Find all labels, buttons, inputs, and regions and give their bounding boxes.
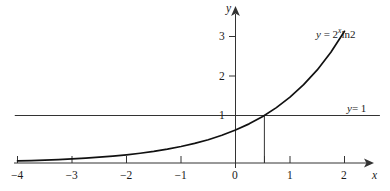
horizontal-line-label-rest: = 1: [352, 102, 366, 114]
y-tick-label-3: 3: [219, 31, 225, 43]
y-tick-label-2: 2: [219, 71, 225, 83]
x-tick-label--4: −4: [11, 170, 23, 182]
y-axis-label: y: [226, 3, 231, 15]
x-tick-label--1: −1: [175, 170, 187, 182]
x-tick-label--2: −2: [120, 170, 132, 182]
curve-equation-equals-sign: =: [321, 28, 333, 40]
exponential-function-graph-figure: −4 −3 −2 −1 0 1 2 1 2 3 y x y = 2xln2 y=…: [0, 0, 390, 191]
curve-equation-label: y = 2xln2: [316, 29, 356, 40]
x-tick-label-2: 2: [341, 170, 347, 182]
horizontal-line-label: y= 1: [347, 103, 366, 114]
y-tick-label-1: 1: [219, 110, 225, 122]
x-tick-label-0: 0: [232, 170, 238, 182]
exponential-curve: [18, 31, 345, 161]
x-axis: [14, 156, 374, 167]
curve-equation-rest: ln2: [341, 28, 355, 40]
x-tick-label-1: 1: [287, 170, 293, 182]
y-axis-ticks: [229, 37, 236, 116]
y-axis: [229, 6, 240, 168]
x-tick-label--3: −3: [66, 170, 78, 182]
x-axis-label: x: [372, 170, 377, 182]
